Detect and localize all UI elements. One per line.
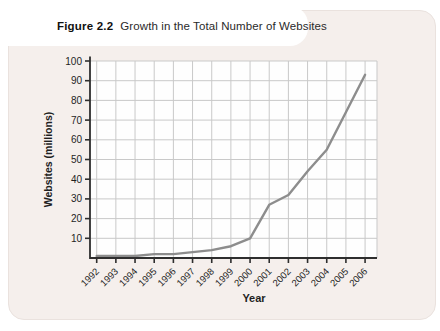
x-tick-label: 2002 <box>270 266 293 289</box>
x-tick-label: 2003 <box>289 266 312 289</box>
figure-page: Figure 2.2 Growth in the Total Number of… <box>0 0 440 331</box>
x-tick-label: 1996 <box>155 266 178 289</box>
x-tick-label: 1994 <box>117 266 140 289</box>
x-tick-label: 2006 <box>347 266 370 289</box>
y-tick-label: 70 <box>71 115 83 126</box>
y-tick-label: 30 <box>71 193 83 204</box>
y-tick-label: 10 <box>71 233 83 244</box>
x-tick-label: 2000 <box>232 266 255 289</box>
y-tick-label: 20 <box>71 213 83 224</box>
y-tick-label: 40 <box>71 174 83 185</box>
x-tick-label: 2004 <box>308 266 331 289</box>
y-tick-label: 90 <box>71 75 83 86</box>
y-tick-label: 50 <box>71 154 83 165</box>
websites-growth-line-chart: 1020304050607080901001992199319941995199… <box>0 0 440 331</box>
y-tick-label: 100 <box>65 56 82 67</box>
x-tick-label: 1997 <box>174 266 197 289</box>
x-axis-title: Year <box>242 292 266 304</box>
y-tick-label: 60 <box>71 134 83 145</box>
y-tick-label: 80 <box>71 95 83 106</box>
x-tick-label: 1999 <box>213 266 236 289</box>
x-tick-label: 2001 <box>251 266 274 289</box>
x-tick-label: 1992 <box>78 266 101 289</box>
x-tick-label: 1995 <box>136 266 159 289</box>
x-tick-label: 2005 <box>328 266 351 289</box>
x-tick-label: 1998 <box>193 266 216 289</box>
x-tick-label: 1993 <box>98 266 121 289</box>
y-axis-title: Websites (millions) <box>42 112 54 208</box>
